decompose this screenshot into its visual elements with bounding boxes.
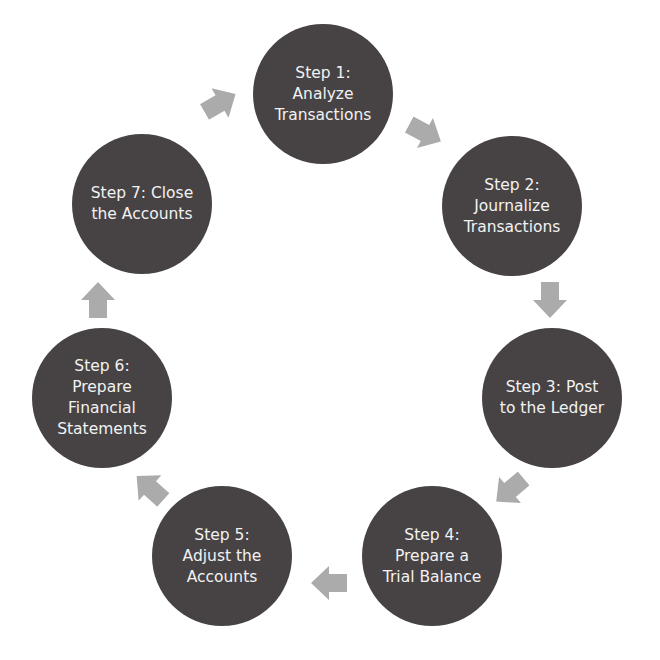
arrow-step7-to-step1 [196, 79, 244, 126]
step-2-circle: Step 2: Journalize Transactions [442, 136, 582, 276]
step-2-label: Step 2: Journalize Transactions [464, 175, 561, 238]
arrow-up-left-icon [125, 463, 175, 512]
step-3-circle: Step 3: Post to the Ledger [482, 328, 622, 468]
arrow-right-icon [401, 110, 449, 157]
arrow-step3-to-step4 [485, 465, 534, 514]
step-4-label: Step 4: Prepare a Trial Balance [383, 525, 481, 588]
arrow-step6-to-step7 [81, 282, 115, 318]
arrow-step2-to-step3 [533, 282, 567, 318]
arrow-left-icon [311, 566, 347, 600]
step-7-label: Step 7: Close the Accounts [91, 183, 193, 225]
arrow-down-left-icon [485, 465, 534, 514]
arrow-step5-to-step6 [125, 463, 175, 512]
arrow-up-icon [81, 282, 115, 318]
step-3-label: Step 3: Post to the Ledger [500, 377, 604, 419]
step-4-circle: Step 4: Prepare a Trial Balance [362, 486, 502, 626]
step-6-label: Step 6: Prepare Financial Statements [57, 356, 147, 440]
arrow-down-icon [533, 282, 567, 318]
step-6-circle: Step 6: Prepare Financial Statements [32, 328, 172, 468]
step-5-label: Step 5: Adjust the Accounts [183, 525, 262, 588]
arrow-step4-to-step5 [311, 566, 347, 600]
step-7-circle: Step 7: Close the Accounts [72, 134, 212, 274]
arrow-step1-to-step2 [401, 110, 449, 157]
step-5-circle: Step 5: Adjust the Accounts [152, 486, 292, 626]
step-1-circle: Step 1: Analyze Transactions [253, 24, 393, 164]
arrow-up-right-icon [196, 79, 244, 126]
step-1-label: Step 1: Analyze Transactions [275, 63, 372, 126]
